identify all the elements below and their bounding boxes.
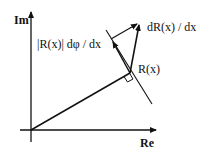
- derivative-label: dR(x) / dx: [147, 21, 196, 33]
- diagram-canvas: Im |R(x)| dφ / dx dR(x) / dx R(x) Re: [0, 0, 206, 154]
- point-label: R(x): [138, 63, 160, 75]
- radial-arrow: [111, 24, 137, 39]
- phase-component-label: |R(x)| dφ / dx: [37, 38, 101, 50]
- r-vector: [31, 73, 130, 130]
- phase-arrow: [113, 42, 130, 73]
- y-axis-label: Im: [14, 14, 29, 26]
- x-axis-label: Re: [140, 137, 154, 149]
